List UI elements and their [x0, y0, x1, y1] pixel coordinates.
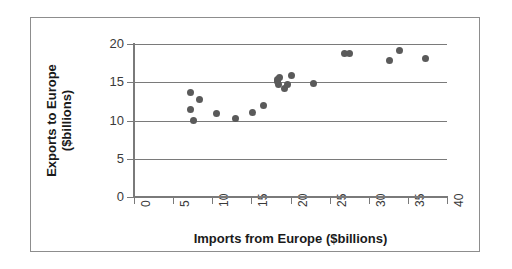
- data-point: [386, 57, 393, 64]
- x-tick-mark: [212, 197, 213, 204]
- y-tick-label: 20: [94, 36, 124, 51]
- chart-figure: Exports to Europe ($billions) 05101520 0…: [0, 0, 512, 269]
- data-point: [187, 89, 194, 96]
- data-point: [249, 109, 256, 116]
- data-point: [276, 74, 283, 81]
- data-point: [196, 96, 203, 103]
- x-tick-mark: [447, 197, 448, 204]
- data-point: [422, 55, 429, 62]
- y-axis-title: Exports to Europe ($billions): [44, 44, 74, 197]
- data-point: [310, 80, 317, 87]
- x-tick-mark: [291, 197, 292, 204]
- scatter-plot-area: [134, 44, 447, 197]
- y-tick-label: 5: [94, 151, 124, 166]
- x-tick-mark: [251, 197, 252, 204]
- data-point: [213, 110, 220, 117]
- x-axis-title: Imports from Europe ($billions): [134, 231, 447, 246]
- x-tick-label: 40: [452, 194, 466, 207]
- x-tick-mark: [173, 197, 174, 204]
- data-point: [232, 115, 239, 122]
- x-tick-mark: [330, 197, 331, 204]
- x-tick-mark: [369, 197, 370, 204]
- data-point: [346, 50, 353, 57]
- data-point: [284, 81, 291, 88]
- x-tick-label: 0: [139, 200, 153, 207]
- y-axis-title-line2: ($billions): [59, 90, 74, 151]
- y-axis-title-line1: Exports to Europe: [44, 64, 59, 177]
- data-point: [260, 102, 267, 109]
- y-tick-label: 0: [94, 189, 124, 204]
- data-point: [190, 117, 197, 124]
- x-tick-mark: [134, 197, 135, 204]
- data-point: [288, 72, 295, 79]
- y-tick-label: 15: [94, 74, 124, 89]
- x-tick-label: 5: [178, 200, 192, 207]
- x-tick-mark: [408, 197, 409, 204]
- data-point: [187, 106, 194, 113]
- y-tick-label: 10: [94, 113, 124, 128]
- data-point: [396, 47, 403, 54]
